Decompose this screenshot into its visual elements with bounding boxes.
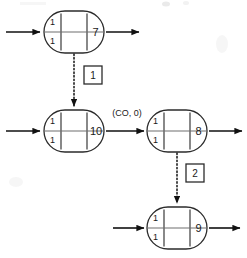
- node-8-cell-top: 1: [153, 116, 158, 126]
- transition-box-1[interactable]: 1: [84, 66, 102, 84]
- node-9-cell-bottom: 1: [153, 232, 158, 242]
- transition-box-1-label: 1: [90, 70, 96, 81]
- node-9-cell-top: 1: [153, 213, 158, 223]
- diagram-canvas: 1 1 7 1 1 10 1 1 8: [0, 0, 247, 258]
- node-10-label: 10: [90, 125, 102, 137]
- node-7-cell-top: 1: [50, 17, 55, 27]
- node-8-cell-bottom: 1: [153, 135, 158, 145]
- edge-label-co-0: (CO, 0): [112, 108, 142, 118]
- node-10[interactable]: 1 1 10: [44, 110, 104, 152]
- node-8-label: 8: [195, 125, 201, 137]
- transition-box-2[interactable]: 2: [186, 164, 204, 182]
- node-9-label: 9: [195, 222, 201, 234]
- node-7-cell-bottom: 1: [50, 36, 55, 46]
- node-7[interactable]: 1 1 7: [44, 11, 104, 53]
- node-10-cell-bottom: 1: [50, 135, 55, 145]
- node-7-label: 7: [92, 26, 98, 38]
- scan-artifacts: [9, 1, 228, 187]
- node-9[interactable]: 1 1 9: [147, 207, 207, 249]
- node-10-cell-top: 1: [50, 116, 55, 126]
- node-8[interactable]: 1 1 8: [147, 110, 207, 152]
- transition-box-2-label: 2: [192, 168, 198, 179]
